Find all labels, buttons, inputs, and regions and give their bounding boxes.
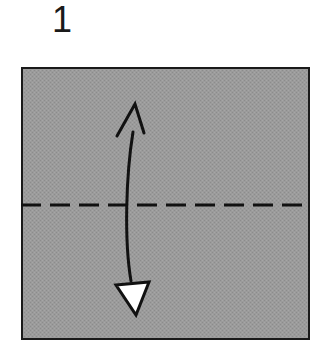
origami-figure bbox=[0, 0, 332, 349]
origami-diagram-canvas: 1 bbox=[0, 0, 332, 349]
